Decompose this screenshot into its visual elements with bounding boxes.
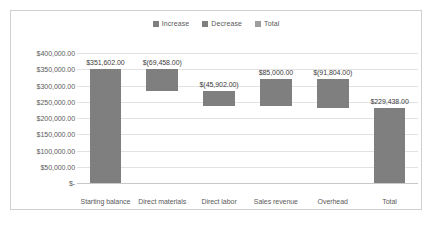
bar-overhead[interactable] <box>317 79 349 109</box>
bar-starting-balance[interactable] <box>90 69 122 183</box>
x-axis-tick-label: Sales revenue <box>248 198 305 205</box>
gridline <box>77 167 418 168</box>
bar-total[interactable] <box>374 108 406 183</box>
y-axis-tick-label: $100,000.00 <box>37 147 75 154</box>
bar-data-label: $85,000.00 <box>246 69 306 76</box>
y-axis-tick-label: $300,000.00 <box>37 82 75 89</box>
y-axis-tick-label: $- <box>69 180 75 187</box>
y-axis: $400,000.00$350,000.00$300,000.00$250,00… <box>13 11 75 209</box>
bar-data-label: $(91,804.00) <box>303 69 363 76</box>
x-axis-tick-label: Starting balance <box>77 198 134 205</box>
x-axis: Starting balanceDirect materialsDirect l… <box>77 191 418 205</box>
gridline <box>77 151 418 152</box>
y-axis-tick-label: $350,000.00 <box>37 66 75 73</box>
x-axis-tick-label: Direct labor <box>191 198 248 205</box>
y-axis-tick-label: $150,000.00 <box>37 131 75 138</box>
gridline <box>77 118 418 119</box>
x-axis-tick-label: Total <box>361 198 418 205</box>
grid-and-bars: $351,602.00$(69,458.00)$(45,902.00)$85,0… <box>77 11 418 209</box>
bar-data-label: $351,602.00 <box>75 59 135 66</box>
y-axis-tick-label: $200,000.00 <box>37 115 75 122</box>
x-axis-tick-label: Direct materials <box>134 198 191 205</box>
x-axis-tick-label: Overhead <box>304 198 361 205</box>
bar-sales-revenue[interactable] <box>260 79 292 107</box>
bar-data-label: $(69,458.00) <box>132 59 192 66</box>
bar-data-label: $(45,902.00) <box>189 81 249 88</box>
y-axis-tick-label: $50,000.00 <box>40 163 75 170</box>
gridline <box>77 134 418 135</box>
chart-container: IncreaseDecreaseTotal $400,000.00$350,00… <box>10 10 422 210</box>
bar-direct-labor[interactable] <box>203 91 235 106</box>
gridline <box>77 53 418 54</box>
axis-baseline <box>77 183 418 184</box>
bar-data-label: $229,438.00 <box>360 98 420 105</box>
y-axis-tick-label: $250,000.00 <box>37 98 75 105</box>
bar-direct-materials[interactable] <box>146 69 178 92</box>
y-axis-tick-label: $400,000.00 <box>37 50 75 57</box>
plot-area: $400,000.00$350,000.00$300,000.00$250,00… <box>11 11 421 209</box>
